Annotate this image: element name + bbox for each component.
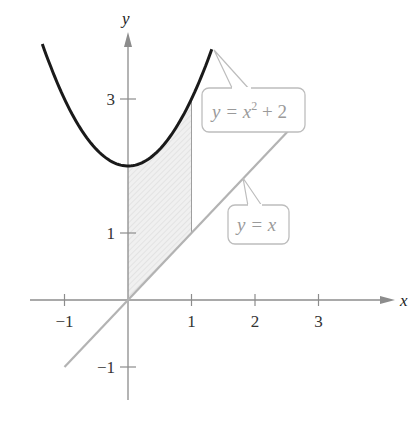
y-tick-label: 1: [107, 224, 116, 243]
y-axis-arrow-icon: [124, 32, 132, 47]
parabola-equation-label: y = x2 + 2: [210, 99, 287, 122]
y-axis-label: y: [120, 9, 130, 28]
x-tick-label: 2: [251, 312, 260, 331]
shaded-region: [128, 99, 192, 300]
y-tick-label: −1: [97, 358, 115, 377]
parabola-label-callout: y = x2 + 2: [202, 50, 305, 132]
x-axis-label: x: [399, 291, 408, 310]
x-axis-arrow-icon: [380, 296, 395, 304]
x-axis: [30, 296, 395, 304]
y-tick-label: 3: [107, 90, 116, 109]
y-ticks: 31−1: [97, 90, 136, 377]
x-tick-label: 3: [314, 312, 323, 331]
graph-figure: x y −1123 31−1 y = x2 + 2 y = x: [0, 0, 416, 423]
x-tick-label: −1: [55, 312, 73, 331]
line-label-callout: y = x: [228, 178, 289, 244]
x-tick-label: 1: [187, 312, 196, 331]
line-equation-label: y = x: [235, 214, 277, 235]
